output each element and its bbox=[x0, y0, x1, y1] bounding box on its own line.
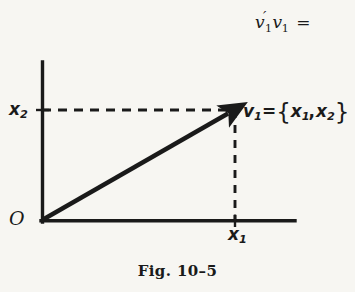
vector-label-equals: = bbox=[262, 101, 276, 121]
component-x1-base: x bbox=[291, 101, 302, 121]
x-axis-label-x1-base: x bbox=[228, 224, 239, 244]
x-axis-label-x1: x1 bbox=[228, 224, 247, 246]
brace-close: } bbox=[335, 99, 350, 125]
brace-open: { bbox=[276, 99, 291, 125]
vector-label-subscript: 1 bbox=[254, 110, 262, 123]
component-x2-subscript: 2 bbox=[327, 110, 335, 123]
figure-caption: Fig. 10–5 bbox=[0, 262, 355, 280]
vector-arrow-v1 bbox=[44, 114, 228, 220]
y-axis-label-x2-base: x bbox=[9, 99, 20, 119]
component-x2-base: x bbox=[316, 101, 327, 121]
x-axis-label-x1-subscript: 1 bbox=[239, 233, 247, 246]
vector-label-base: v bbox=[243, 101, 254, 121]
vector-definition-label: v1={x1,x2} bbox=[243, 99, 349, 125]
component-separator-comma: , bbox=[309, 101, 315, 121]
y-axis-label-x2-subscript: 2 bbox=[20, 108, 28, 121]
origin-label: O bbox=[9, 207, 25, 229]
figure-container: v′1v1= x2 x1 O v1={x1,x2} Fig. 10–5 bbox=[0, 0, 355, 292]
y-axis-label-x2: x2 bbox=[9, 99, 28, 121]
vector-plot bbox=[0, 0, 355, 292]
